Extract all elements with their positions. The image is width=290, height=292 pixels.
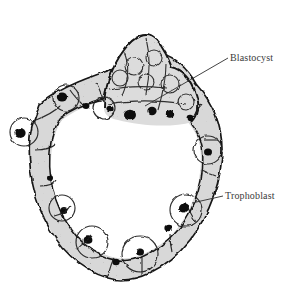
- blastocyst-illustration: [0, 0, 290, 292]
- blastocyst-figure: Blastocyst Trophoblast: [0, 0, 290, 292]
- annotation-label-trophoblast: Trophoblast: [225, 190, 275, 201]
- annotation-label-blastocyst: Blastocyst: [230, 52, 273, 63]
